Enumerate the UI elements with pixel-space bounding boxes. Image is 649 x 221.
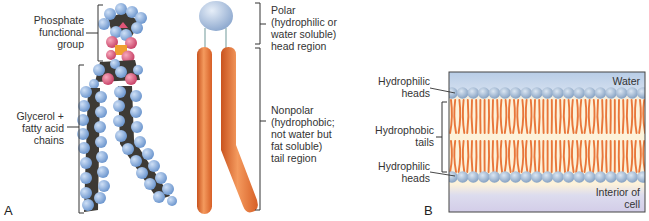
- label-line: tails: [366, 136, 434, 148]
- phosphate-head-atoms: [98, 3, 147, 64]
- polar-head-sphere: [199, 1, 233, 31]
- label-line: (hydrophilic or: [271, 16, 371, 28]
- glycerol-atoms: [89, 59, 143, 89]
- label-line: heads: [370, 172, 430, 184]
- label-line: head region: [271, 40, 371, 52]
- label-line: fatty acid: [0, 122, 64, 134]
- label-line: cell: [580, 198, 640, 210]
- label-line: Hydrophilic: [370, 75, 430, 87]
- tail-left: [197, 47, 212, 214]
- label-glycerol-chains: Glycerol + fatty acid chains: [0, 110, 64, 146]
- label-line: Hydrophobic: [366, 124, 434, 136]
- label-hydrophobic-tails: Hydrophobic tails: [366, 124, 434, 148]
- label-line: Glycerol +: [0, 110, 64, 122]
- label-interior-of-cell: Interior of cell: [580, 186, 640, 210]
- label-phosphate-group: Phosphate functional group: [14, 14, 84, 50]
- label-bottom-hydrophilic-heads: Hydrophilic heads: [370, 160, 430, 184]
- label-line: Hydrophilic: [370, 160, 430, 172]
- bracket-polar: [255, 3, 266, 44]
- label-line: group: [14, 38, 84, 50]
- label-line: not water but: [271, 128, 371, 140]
- bracket-tails: [436, 102, 447, 172]
- label-line: Interior of: [580, 186, 640, 198]
- label-line: (hydrophobic;: [271, 116, 371, 128]
- label-line: tail region: [271, 152, 371, 164]
- label-water: Water: [590, 75, 640, 87]
- label-top-hydrophilic-heads: Hydrophilic heads: [370, 75, 430, 99]
- label-line: fat soluble): [271, 140, 371, 152]
- hydrophilic-heads-top: [446, 87, 648, 99]
- label-nonpolar-tail-region: Nonpolar (hydrophobic; not water but fat…: [271, 104, 371, 164]
- simplified-phospholipid: [197, 1, 258, 214]
- panel-letter-a: A: [4, 203, 13, 218]
- label-line: Polar: [271, 4, 371, 16]
- label-line: water soluble): [271, 28, 371, 40]
- fatty-acid-chain-left: [77, 86, 110, 212]
- hydrophilic-heads-bottom: [446, 171, 648, 183]
- label-polar-head-region: Polar (hydrophilic or water soluble) hea…: [271, 4, 371, 52]
- label-line: functional: [14, 26, 84, 38]
- label-line: chains: [0, 134, 64, 146]
- label-line: heads: [370, 87, 430, 99]
- bracket-phosphate: [86, 5, 103, 61]
- tail-right: [221, 47, 258, 212]
- panel-letter-b: B: [424, 203, 433, 218]
- fatty-acid-chain-right: [113, 86, 177, 206]
- label-line: Phosphate: [14, 14, 84, 26]
- label-line: Nonpolar: [271, 104, 371, 116]
- bracket-nonpolar: [255, 48, 266, 210]
